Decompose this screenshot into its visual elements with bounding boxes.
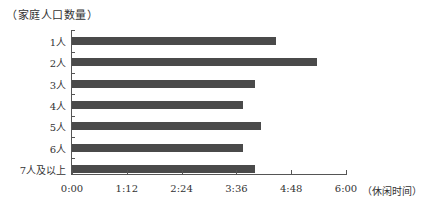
y-tick-label: 2人 xyxy=(6,55,66,70)
x-tick-label: 1:12 xyxy=(116,183,138,194)
x-tick xyxy=(346,170,347,174)
y-tick xyxy=(71,137,75,138)
x-tick-label: 6:00 xyxy=(335,183,357,194)
y-tick xyxy=(71,116,75,117)
x-axis-title: （休闲时间） xyxy=(362,183,422,198)
y-tick xyxy=(71,94,75,95)
bar xyxy=(72,122,261,130)
y-tick xyxy=(71,158,75,159)
y-tick xyxy=(71,30,75,31)
y-tick-label: 6人 xyxy=(6,141,66,156)
y-tick xyxy=(71,52,75,53)
x-tick xyxy=(291,170,292,174)
x-tick xyxy=(127,170,128,174)
y-tick xyxy=(71,73,75,74)
y-tick-label: 1人 xyxy=(6,34,66,49)
x-tick-label: 3:36 xyxy=(225,183,247,194)
y-axis-title: （家庭人口数量） xyxy=(6,6,98,22)
y-tick-label: 3人 xyxy=(6,77,66,92)
bar-chart: （家庭人口数量） 1人2人3人4人5人6人7人及以上 0:001:122:243… xyxy=(0,0,429,212)
y-tick-label: 7人及以上 xyxy=(6,162,66,177)
bar xyxy=(72,101,243,109)
x-tick xyxy=(182,170,183,174)
x-tick xyxy=(236,170,237,174)
x-tick-label: 4:48 xyxy=(280,183,302,194)
x-axis-line xyxy=(71,174,347,175)
x-tick xyxy=(72,170,73,174)
bar xyxy=(72,37,276,45)
x-tick-label: 2:24 xyxy=(170,183,192,194)
bar xyxy=(72,165,255,173)
bar xyxy=(72,58,317,66)
y-tick-label: 5人 xyxy=(6,119,66,134)
x-tick-label: 0:00 xyxy=(61,183,83,194)
bar xyxy=(72,80,255,88)
bar xyxy=(72,144,243,152)
y-tick-label: 4人 xyxy=(6,98,66,113)
